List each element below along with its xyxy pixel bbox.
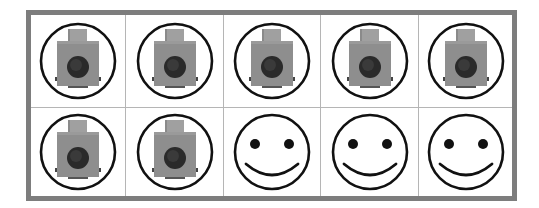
frame-cell xyxy=(224,15,321,108)
frame-cell xyxy=(126,15,224,108)
camera-icon xyxy=(38,21,118,101)
frame-cell xyxy=(224,108,321,196)
camera-icon xyxy=(426,21,506,101)
smiley-face-icon xyxy=(232,112,312,192)
frame-cell xyxy=(31,108,126,196)
camera-icon xyxy=(135,112,215,192)
camera-icon xyxy=(232,21,312,101)
frame-cell xyxy=(321,108,419,196)
camera-icon xyxy=(38,112,118,192)
frame-cell xyxy=(31,15,126,108)
smiley-face-icon xyxy=(330,112,410,192)
frame-cell xyxy=(419,108,512,196)
ten-frame-grid xyxy=(31,15,512,196)
ten-frame xyxy=(26,10,517,201)
frame-cell xyxy=(126,108,224,196)
camera-icon xyxy=(135,21,215,101)
frame-cell xyxy=(321,15,419,108)
smiley-face-icon xyxy=(426,112,506,192)
frame-cell xyxy=(419,15,512,108)
camera-icon xyxy=(330,21,410,101)
